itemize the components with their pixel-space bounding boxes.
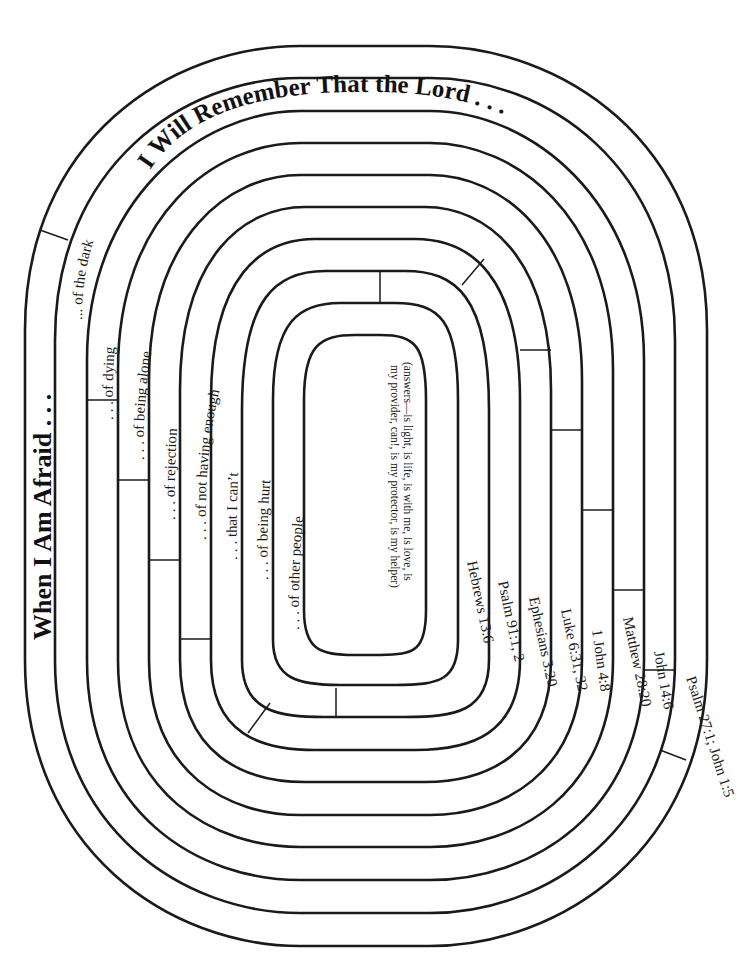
fear-label: . . . of not having enough xyxy=(193,387,223,540)
divider xyxy=(462,259,484,285)
left-title: When I Am Afraid . . . xyxy=(28,394,57,640)
answer-key: (answers—is light, is life, is with me, … xyxy=(388,362,414,588)
divider xyxy=(248,703,270,733)
reference-label: Psalm 27:1; John 1:5 xyxy=(683,674,737,799)
fear-label: . . . that I can’t xyxy=(224,471,241,560)
fear-maze-diagram: When I Am Afraid . . . I Will Remember T… xyxy=(0,0,745,967)
fear-label: . . . of being alone xyxy=(131,349,155,460)
divider xyxy=(40,230,68,240)
reference-label: Hebrews 13:6 xyxy=(464,559,497,645)
maze-rings xyxy=(25,46,707,946)
ring-outer xyxy=(25,46,707,946)
reference-label: Psalm 91:1, 2 xyxy=(495,579,528,663)
reference-label: Matthew 28:20 xyxy=(620,615,655,708)
fear-label: . . . of rejection xyxy=(162,427,180,520)
reference-label: Luke 6:31, 32 xyxy=(558,607,591,692)
reference-labels: Psalm 27:1; John 1:5 John 14:6 Matthew 2… xyxy=(464,559,737,799)
fear-labels: ... of the dark . . . of dying . . . of … xyxy=(69,237,306,630)
answer-line-1: (answers—is light, is life, is with me, … xyxy=(401,362,414,581)
fear-label: . . . of being hurt xyxy=(255,478,274,580)
answer-line-2: my provider, can!, is my protector, is m… xyxy=(388,365,401,588)
top-title: I Will Remember That the Lord . . . xyxy=(132,70,512,173)
divider xyxy=(660,750,686,760)
fear-label: . . . of dying xyxy=(100,345,118,420)
reference-label: Ephesians 3:20 xyxy=(526,595,561,688)
reference-label: 1 John 4:8 xyxy=(589,628,614,692)
ring-2 xyxy=(118,143,613,847)
